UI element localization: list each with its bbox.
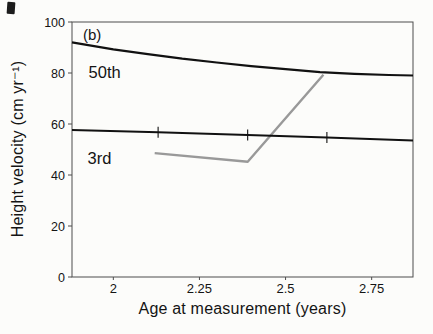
- y-tick-label: 60: [51, 118, 65, 132]
- growth-velocity-figure: 02040608010022.252.52.75(b)50th3rd Age a…: [0, 0, 433, 334]
- x-tick-label: 2: [110, 281, 117, 296]
- series-centile-3rd: [72, 130, 413, 141]
- y-tick-label: 80: [51, 67, 65, 81]
- y-tick-label: 20: [51, 220, 65, 234]
- y-tick-label: 40: [51, 169, 65, 183]
- series-patient-measured-velocity: [155, 75, 324, 162]
- annotation-3rd: 3rd: [88, 149, 112, 167]
- plot-frame: [72, 22, 413, 277]
- annotation-50th: 50th: [89, 63, 121, 81]
- x-tick-label: 2.75: [359, 281, 384, 296]
- y-tick-label: 100: [44, 16, 65, 30]
- x-axis-title: Age at measurement (years): [72, 300, 413, 318]
- x-tick-label: 2.5: [277, 281, 295, 296]
- series-centile-50th: [72, 42, 413, 75]
- y-tick-label: 0: [58, 271, 65, 285]
- height-velocity-chart: 02040608010022.252.52.75(b)50th3rd: [0, 0, 433, 334]
- annotation-b: (b): [83, 26, 101, 43]
- y-axis-title: Height velocity (cm yr⁻¹): [8, 61, 27, 238]
- x-tick-label: 2.25: [187, 281, 212, 296]
